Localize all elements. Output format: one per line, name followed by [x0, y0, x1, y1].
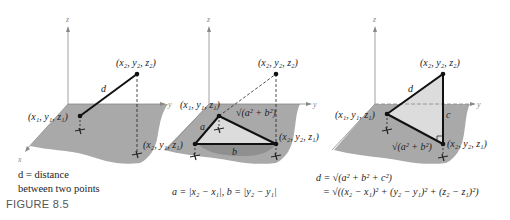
side-a-label: a	[200, 121, 205, 132]
z-axis-label: z	[206, 15, 211, 24]
y-axis-label: y	[476, 100, 481, 109]
side-d-label: d	[408, 83, 414, 94]
figure-label: FIGURE 8.5	[6, 198, 69, 210]
point-1-label: (x₁, y₁, z₁)	[180, 99, 221, 111]
side-b-label: b	[232, 146, 237, 157]
z-axis-label: z	[372, 15, 377, 24]
point-4-label: (x₂, y₂, z₁)	[279, 131, 320, 143]
distance-formula-line-1: d = √(a² + b² + c²)	[316, 172, 392, 183]
hypotenuse-label: √(a² + b²)	[236, 107, 277, 119]
panel-1-caption-line-1: d = distance	[18, 169, 69, 180]
panel-2-caption: a = |x₂ − x₁|, b = |y₂ − y₁|	[172, 186, 277, 197]
point-4-label: (x₂, y₂, z₁)	[447, 138, 488, 150]
point-1-label: (x₁, y₁, z₁)	[335, 109, 376, 121]
point-2-label: (x₂, y₂, z₂)	[258, 57, 299, 69]
point-3-label: (x₂, y₁, z₁)	[143, 139, 184, 151]
panel-3-diagram: z y d c √(a² + b²) (x₂, y₂, z₂) (x₁, y₁,…	[332, 15, 488, 164]
point-2-label: (x₂, y₂, z₂)	[420, 57, 461, 69]
y-axis-label: y	[312, 100, 317, 109]
panel-1-caption-line-2: between two points	[18, 183, 100, 194]
y-axis-label: y	[167, 100, 172, 109]
x-axis-label: x	[17, 155, 22, 164]
base-label: √(a² + b²)	[392, 141, 433, 153]
segment-d-label: d	[101, 83, 107, 94]
point-1-label: (x₁, y₁, z₁)	[28, 111, 69, 123]
z-axis-label: z	[65, 15, 70, 24]
panel-2-diagram: z y a b √(a² + b²) (x₂, y₂, z₂) (x₁, y₁,…	[143, 15, 320, 164]
point-2-label: (x₂, y₂, z₂)	[116, 57, 157, 69]
side-c-label: c	[446, 109, 451, 120]
distance-formula-line-2: = √((x₂ − x₁)² + (y₂ − y₁)² + (z₂ − z₁)²…	[323, 186, 479, 197]
